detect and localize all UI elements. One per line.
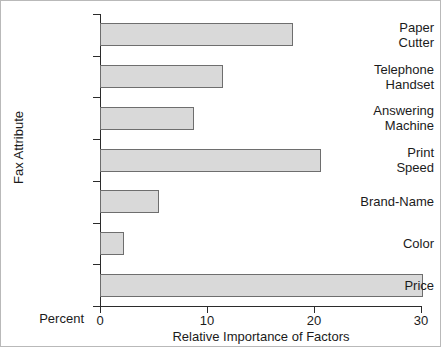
y-axis-tick	[93, 56, 100, 57]
y-axis-tick	[93, 223, 100, 224]
x-axis-tick	[100, 306, 101, 313]
category-label-line: Brand-Name	[350, 194, 434, 209]
category-label-line: Color	[350, 236, 434, 251]
x-axis-tick	[421, 306, 422, 313]
category-label-line: Price	[350, 278, 434, 293]
x-axis-tick-label: 30	[401, 313, 441, 329]
y-axis-category-label: PaperCutter	[350, 20, 442, 50]
category-label-line: Telephone	[350, 62, 434, 77]
bar	[100, 232, 124, 255]
y-axis-tick	[93, 97, 100, 98]
chart-figure: PaperCutterTelephoneHandsetAnsweringMach…	[0, 0, 442, 348]
y-axis-tick	[93, 139, 100, 140]
category-label-line: Machine	[350, 118, 434, 133]
bar	[100, 190, 159, 213]
x-axis-tick	[314, 306, 315, 313]
percent-label: Percent	[0, 311, 92, 326]
x-axis-tick-label: 10	[187, 313, 227, 329]
x-axis-tick-label: 20	[294, 313, 334, 329]
x-axis-title: Relative Importance of Factors	[100, 329, 422, 344]
category-label-line: Cutter	[350, 35, 434, 50]
bar	[100, 23, 293, 46]
category-label-line: Answering	[350, 103, 434, 118]
y-axis-category-label: PrintSpeed	[350, 145, 442, 175]
category-label-line: Speed	[350, 160, 434, 175]
y-axis-category-label: Color	[350, 236, 442, 251]
bar	[100, 149, 321, 172]
y-axis-category-label: TelephoneHandset	[350, 62, 442, 92]
y-axis-category-label: Price	[350, 278, 442, 293]
category-label-line: Paper	[350, 20, 434, 35]
x-axis-tick	[207, 306, 208, 313]
y-axis-tick	[93, 14, 100, 15]
category-label-line: Print	[350, 145, 434, 160]
y-axis-category-label: AnsweringMachine	[350, 103, 442, 133]
y-axis-tick	[93, 181, 100, 182]
y-axis-tick	[93, 264, 100, 265]
bar	[100, 107, 194, 130]
category-label-line: Handset	[350, 77, 434, 92]
bar	[100, 65, 223, 88]
y-axis-category-label: Brand-Name	[350, 194, 442, 209]
y-axis-tick	[93, 306, 100, 307]
x-axis-line	[100, 306, 422, 307]
y-axis-title: Fax Attribute	[11, 78, 26, 218]
